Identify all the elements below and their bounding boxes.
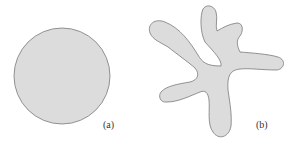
blob-shape (149, 6, 283, 137)
circle-shape (14, 28, 110, 124)
figure-canvas (0, 0, 295, 145)
panel-label-a: (a) (103, 119, 114, 130)
panel-label-b: (b) (256, 119, 268, 130)
